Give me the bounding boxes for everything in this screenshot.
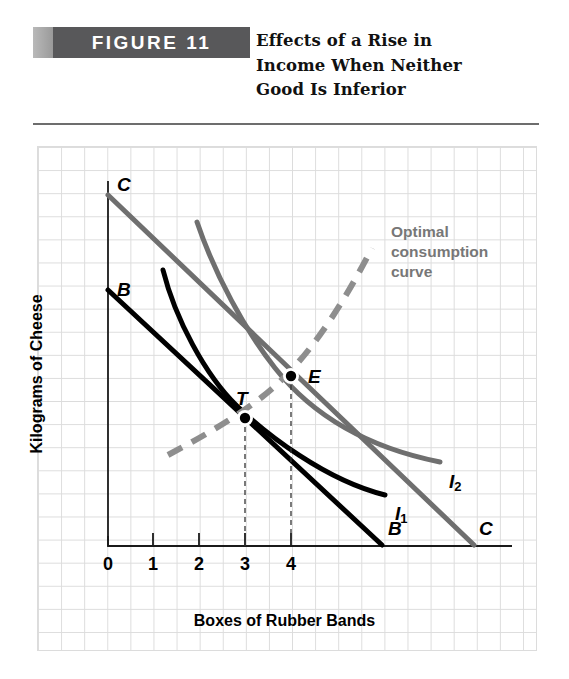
label-budget-b-top: B xyxy=(117,279,131,301)
label-point-e: E xyxy=(308,366,321,388)
chart-plot xyxy=(0,0,569,679)
label-optimal-consumption-curve: Optimal consumption curve xyxy=(391,222,488,282)
label-indifference-i2: I2 xyxy=(449,471,462,494)
label-i1-subscript: 1 xyxy=(400,511,407,526)
point-e-marker xyxy=(286,371,296,381)
optimal-label-line-2: consumption xyxy=(391,242,488,262)
x-tick-label-2: 2 xyxy=(187,554,211,575)
optimal-label-line-3: curve xyxy=(391,262,488,282)
label-indifference-i1: I1 xyxy=(395,503,408,526)
x-tick-label-0: 0 xyxy=(96,554,120,575)
label-i2-subscript: 2 xyxy=(454,479,461,494)
point-t-marker xyxy=(240,413,250,423)
x-tick-label-3: 3 xyxy=(233,554,257,575)
x-axis-title: Boxes of Rubber Bands xyxy=(0,612,569,630)
optimal-label-line-1: Optimal xyxy=(391,222,488,242)
x-tick-label-1: 1 xyxy=(141,554,165,575)
figure-page: FIGURE 11 Effects of a Rise in Income Wh… xyxy=(0,0,569,679)
y-axis-title: Kilograms of Cheese xyxy=(28,274,46,474)
x-tick-label-4: 4 xyxy=(279,554,303,575)
label-point-t: T xyxy=(236,388,248,410)
indifference-curve-i1 xyxy=(163,270,385,495)
label-budget-c-bottom: C xyxy=(479,518,493,540)
label-budget-c-top: C xyxy=(117,174,131,196)
